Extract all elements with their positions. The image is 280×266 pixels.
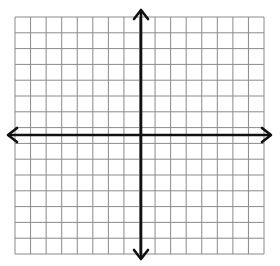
coordinate-plane [0,0,280,266]
